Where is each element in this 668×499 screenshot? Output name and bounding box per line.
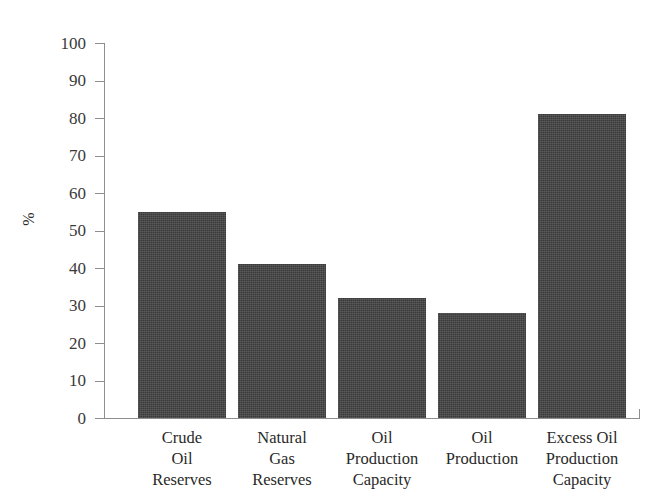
- y-tick-20: 20: [95, 343, 104, 344]
- x-axis-end-tick: [639, 409, 640, 419]
- plot-area: 100 90 80 70 60 50 40 30 20 10 0 CrudeOi…: [104, 43, 640, 418]
- chart-title-cropped: [0, 0, 668, 9]
- y-axis-title: %: [20, 212, 38, 225]
- y-tick-60: 60: [95, 193, 104, 194]
- y-tick-70: 70: [95, 156, 104, 157]
- y-tick-30: 30: [95, 306, 104, 307]
- y-tick-0: 0: [95, 418, 104, 419]
- bar-oil-production: [438, 313, 526, 418]
- x-axis-line: [104, 418, 640, 419]
- y-tick-10: 10: [95, 381, 104, 382]
- y-tick-90: 90: [95, 81, 104, 82]
- y-tick-50: 50: [95, 231, 104, 232]
- bar-chart-figure: % 100 90 80 70 60 50 40 30 20 10 0 Crude…: [0, 0, 668, 499]
- y-axis-line: [104, 43, 105, 418]
- bar-excess-oil-production-capacity: [538, 114, 626, 418]
- x-label-excess-oil-production-capacity: Excess OilProductionCapacity: [518, 427, 646, 490]
- y-tick-80: 80: [95, 118, 104, 119]
- y-tick-40: 40: [95, 268, 104, 269]
- bar-oil-production-capacity: [338, 298, 426, 418]
- y-tick-100: 100: [95, 43, 104, 44]
- bar-crude-oil-reserves: [138, 212, 226, 418]
- bar-natural-gas-reserves: [238, 264, 326, 418]
